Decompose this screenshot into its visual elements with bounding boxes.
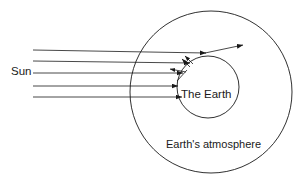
scattered-ray-outgoing [205, 45, 243, 53]
sun-label: Sun [11, 66, 31, 78]
earth-label: The Earth [181, 89, 232, 101]
diagram-canvas: Sun The Earth Earth's atmosphere [0, 0, 308, 184]
earth-circle [177, 56, 239, 118]
incoming-ray-2 [33, 61, 190, 63]
diagram-svg [0, 0, 308, 184]
atmosphere-label: Earth's atmosphere [166, 139, 261, 150]
scattered-ray-left [170, 69, 186, 72]
incoming-ray-1 [33, 50, 206, 53]
